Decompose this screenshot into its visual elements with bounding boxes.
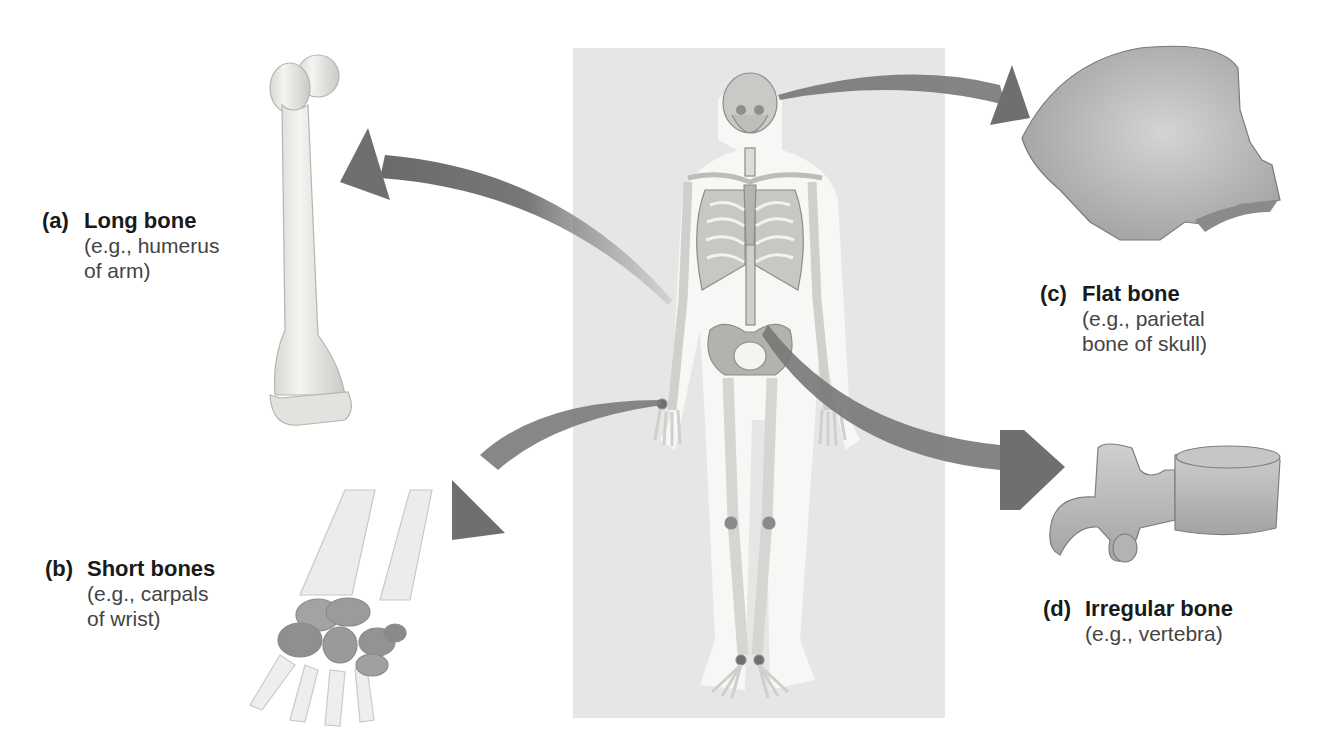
label-title: Long bone [84, 208, 196, 233]
carpals-icon [250, 490, 432, 726]
humerus-icon [270, 55, 351, 425]
vertebra-icon [1050, 444, 1280, 562]
flat-bone-label: (c) Flat bone (e.g., parietal bone of sk… [1040, 281, 1207, 356]
irregular-bone-label: (d) Irregular bone (e.g., vertebra) [1043, 596, 1233, 646]
label-description: (e.g., carpals [87, 581, 215, 606]
label-tag: (c) [1040, 281, 1082, 306]
long-bone-label: (a) Long bone (e.g., humerus of arm) [42, 208, 219, 283]
bone-classification-diagram: (a) Long bone (e.g., humerus of arm) (b)… [0, 0, 1335, 752]
label-description: (e.g., parietal [1082, 306, 1207, 331]
label-tag: (a) [42, 208, 84, 233]
short-bones-label: (b) Short bones (e.g., carpals of wrist) [45, 556, 215, 631]
label-tag: (d) [1043, 596, 1085, 621]
label-tag: (b) [45, 556, 87, 581]
label-title: Irregular bone [1085, 596, 1233, 621]
label-description: (e.g., humerus [84, 233, 219, 258]
label-description: of wrist) [87, 606, 215, 631]
parietal-bone-icon [1022, 46, 1280, 240]
label-description: of arm) [84, 258, 219, 283]
label-title: Short bones [87, 556, 215, 581]
label-description: (e.g., vertebra) [1085, 621, 1233, 646]
label-description: bone of skull) [1082, 331, 1207, 356]
label-title: Flat bone [1082, 281, 1180, 306]
